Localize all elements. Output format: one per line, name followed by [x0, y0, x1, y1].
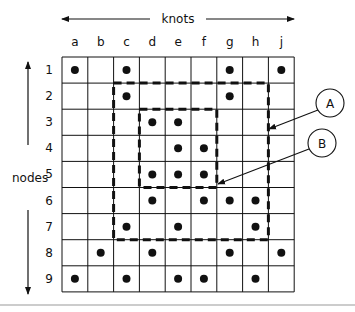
column-label: b: [97, 35, 105, 49]
dot: [148, 170, 156, 178]
callout-a-arrow-icon: [269, 110, 318, 129]
dot: [252, 197, 260, 205]
dot: [277, 66, 285, 74]
column-label: h: [252, 35, 260, 49]
row-label: 1: [45, 63, 53, 77]
dot: [174, 144, 182, 152]
dot: [97, 249, 105, 257]
row-label: 5: [45, 167, 53, 181]
dot: [148, 249, 156, 257]
dot: [252, 223, 260, 231]
top-axis: knots: [62, 12, 294, 26]
dot: [71, 275, 79, 283]
column-label: c: [123, 35, 130, 49]
row-labels: 123456789: [45, 63, 53, 286]
dot: [200, 197, 208, 205]
side-axis: nodes: [12, 62, 48, 294]
dot: [277, 249, 285, 257]
callout-b-arrow-icon: [218, 149, 309, 184]
dot: [200, 170, 208, 178]
dot: [226, 66, 234, 74]
column-label: a: [71, 35, 78, 49]
column-label: f: [202, 35, 207, 49]
dot: [148, 118, 156, 126]
row-label: 3: [45, 115, 53, 129]
dot: [123, 223, 131, 231]
row-label: 9: [45, 272, 53, 286]
row-label: 7: [45, 220, 53, 234]
column-label: g: [226, 35, 234, 49]
row-label: 4: [45, 141, 53, 155]
row-label: 2: [45, 89, 53, 103]
dot: [252, 275, 260, 283]
dot: [71, 66, 79, 74]
dot: [174, 170, 182, 178]
row-label: 8: [45, 246, 53, 260]
top-axis-label: knots: [162, 12, 195, 26]
dots: [71, 66, 285, 283]
row-label: 6: [45, 194, 53, 208]
dot: [174, 223, 182, 231]
column-label: e: [174, 35, 181, 49]
dot: [200, 144, 208, 152]
dot: [148, 197, 156, 205]
dot: [123, 66, 131, 74]
dot: [174, 275, 182, 283]
column-label: d: [148, 35, 156, 49]
dot: [226, 197, 234, 205]
callout-b: B: [218, 129, 336, 184]
dot: [226, 92, 234, 100]
dot: [226, 249, 234, 257]
dot: [123, 275, 131, 283]
dot: [174, 118, 182, 126]
callout-b-label: B: [318, 137, 326, 151]
callout-a-label: A: [326, 97, 335, 111]
column-labels: abcdefghj: [71, 35, 283, 49]
column-label: j: [279, 35, 283, 49]
side-axis-label: nodes: [12, 171, 48, 185]
dot: [200, 275, 208, 283]
dot: [123, 92, 131, 100]
knots-nodes-grid-diagram: knots nodes abcdefghj 123456789 A B: [0, 0, 355, 312]
